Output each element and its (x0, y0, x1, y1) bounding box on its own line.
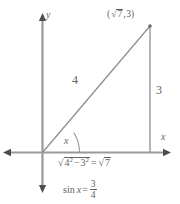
vertex-coordinate-label: (√7, 3) (107, 9, 134, 20)
base-eq-second-exponent: 2 (86, 156, 89, 163)
apex-vertex-point (148, 24, 152, 28)
base-eq-radicand: 42−32 (64, 157, 90, 168)
y-axis (39, 13, 46, 193)
base-length-equation: √42−32=√7 (57, 157, 111, 168)
base-eq-result-radical: √7 (98, 157, 112, 168)
sine-denominator: 4 (90, 189, 97, 200)
hypotenuse-length-label: 4 (72, 74, 78, 86)
y-axis-label: y (46, 10, 50, 20)
sine-fraction: 34 (90, 179, 97, 200)
x-axis-arrow-left (3, 149, 11, 156)
vertex-radicand: 7 (116, 9, 123, 20)
hypotenuse-segment (43, 26, 151, 153)
vertex-close-paren: ) (131, 9, 134, 19)
base-eq-radical: √42−32 (57, 157, 90, 168)
vertex-radical: √7 (110, 9, 123, 20)
opposite-side-length-label: 3 (156, 84, 162, 96)
angle-label: x (64, 136, 68, 146)
x-axis-label: x (161, 132, 165, 142)
base-eq-equals: = (90, 157, 98, 168)
sine-equation: sin x=34 (63, 180, 97, 201)
y-axis-arrow-down (39, 185, 46, 193)
sine-equals: = (81, 184, 89, 195)
sine-function-name: sin (63, 184, 75, 195)
sine-numerator: 3 (90, 179, 97, 189)
base-eq-result-radicand: 7 (104, 157, 111, 168)
trigonometry-diagram: y x 4 3 x (√7, 3) √42−32=√7 sin x=34 (0, 0, 180, 204)
angle-arc (74, 133, 80, 153)
x-axis-arrow-right (163, 149, 171, 156)
diagram-canvas (0, 0, 180, 204)
base-eq-minus: − (73, 157, 81, 168)
